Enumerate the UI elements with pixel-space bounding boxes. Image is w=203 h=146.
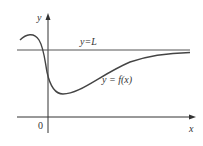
- y-axis-arrow-icon: [46, 13, 51, 20]
- y-axis-label: y: [36, 12, 42, 23]
- origin-label: 0: [38, 120, 43, 131]
- asymptote-label: y=L: [79, 36, 97, 47]
- function-curve: [20, 35, 190, 94]
- x-axis-label: x: [188, 123, 194, 134]
- curve-label: y = f(x): [101, 74, 133, 86]
- function-graph: y 0 x y=L y = f(x): [0, 0, 203, 146]
- x-axis-arrow-icon: [189, 115, 196, 120]
